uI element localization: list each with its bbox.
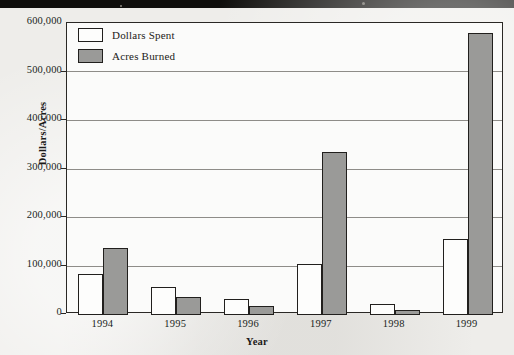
bar-1998-acres-burned: [395, 310, 420, 315]
y-axis-tick-mark: [61, 265, 66, 266]
y-axis-tick-label: 400,000: [27, 112, 62, 123]
bar-1995-dollars-spent: [151, 287, 176, 315]
x-axis-tick-label-1995: 1995: [145, 318, 205, 329]
y-axis-tick-label: 300,000: [27, 161, 62, 172]
legend-entry-dollars-spent: Dollars Spent: [78, 26, 220, 44]
gridline: [67, 217, 502, 218]
chart-legend: Dollars Spent Acres Burned: [78, 26, 220, 68]
bar-1996-dollars-spent: [224, 299, 249, 315]
bar-1997-dollars-spent: [297, 264, 322, 315]
y-axis-tick-mark: [61, 313, 66, 314]
bar-1994-acres-burned: [103, 248, 128, 315]
bar-1998-dollars-spent: [370, 304, 395, 315]
x-axis-tick-label-1997: 1997: [291, 318, 351, 329]
x-axis-tick-label-1998: 1998: [364, 318, 424, 329]
x-axis-tick-label-1996: 1996: [218, 318, 278, 329]
x-axis-tick-label-1999: 1999: [437, 318, 497, 329]
legend-label-acres-burned: Acres Burned: [112, 50, 175, 62]
bar-chart-figure: Dollars/Acres Dollars Spent Acres Burned…: [0, 0, 514, 355]
bar-1996-acres-burned: [249, 306, 274, 315]
bar-1997-acres-burned: [322, 152, 347, 315]
gridline: [67, 120, 502, 121]
y-axis-tick-mark: [61, 71, 66, 72]
legend-label-dollars-spent: Dollars Spent: [112, 29, 175, 41]
legend-entry-acres-burned: Acres Burned: [78, 47, 220, 65]
y-axis-tick-label: 500,000: [27, 64, 62, 75]
bar-1999-acres-burned: [468, 33, 493, 315]
gridline: [67, 266, 502, 267]
bar-1995-acres-burned: [176, 297, 201, 315]
y-axis-tick-label: 200,000: [27, 209, 62, 220]
x-axis-title: Year: [0, 336, 514, 347]
x-axis-tick-label-1994: 1994: [72, 318, 132, 329]
bar-1999-dollars-spent: [443, 239, 468, 315]
y-axis-tick-label: 0: [57, 306, 62, 317]
legend-swatch-acres-burned: [78, 49, 103, 63]
y-axis-tick-mark: [61, 168, 66, 169]
legend-swatch-dollars-spent: [78, 28, 103, 42]
y-axis-tick-label: 100,000: [27, 258, 62, 269]
gridline: [67, 169, 502, 170]
y-axis-tick-mark: [61, 119, 66, 120]
bar-1994-dollars-spent: [78, 274, 103, 315]
y-axis-tick-mark: [61, 216, 66, 217]
gridline: [67, 71, 502, 72]
y-axis-tick-label: 600,000: [27, 15, 62, 26]
